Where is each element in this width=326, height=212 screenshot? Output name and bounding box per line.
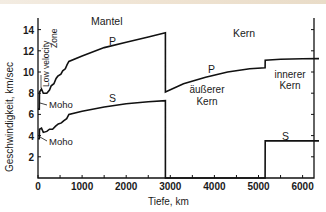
x-tick-label: 6000 [291,181,314,192]
x-tick-label: 1000 [71,181,94,192]
label-p-mantle: P [109,35,116,47]
velocity-depth-chart: 0100020003000400050006000 2468101214 Man… [0,0,326,212]
x-tick-label: 5000 [247,181,270,192]
label-zone: Zone [49,28,59,48]
label-moho-s: Moho [49,136,73,147]
label-s-mantle: S [109,92,116,104]
y-tick-label: 14 [23,25,35,36]
label-p-core: P [208,63,215,75]
label-mantel: Mantel [91,15,123,27]
y-tick-label: 4 [28,131,34,142]
x-tick-label: 2000 [115,181,138,192]
label-moho-p: Moho [49,99,73,110]
y-tick-label: 12 [23,46,35,57]
y-tick-label: 6 [28,109,34,120]
label-s-inner: S [282,130,289,142]
moho-s-leader [40,137,47,141]
y-tick-label: 2 [28,152,34,163]
label-kern: Kern [233,27,255,39]
axes [38,18,314,178]
x-axis-label: Tiefe, km [148,196,189,207]
label-inner-core-1: innerer [274,69,306,80]
s-wave-line [38,101,319,178]
x-tick-label: 0 [35,181,41,192]
label-inner-core-2: Kern [279,80,300,91]
axis-lines [38,18,314,178]
label-outer-core-2: Kern [196,96,217,107]
x-tick-label: 3000 [159,181,182,192]
moho-p-leader [40,103,47,105]
y-axis-label: Geschwindigkeit, km/sec [4,62,15,172]
label-outer-core-1: äußerer [189,84,225,95]
y-tick-label: 10 [23,67,35,78]
x-tick-label: 4000 [203,181,226,192]
y-tick-label: 8 [28,88,34,99]
